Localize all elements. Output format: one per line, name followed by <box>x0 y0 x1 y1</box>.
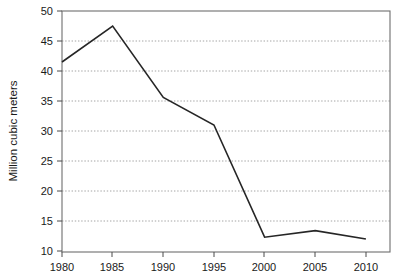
x-label-1995: 1995 <box>202 261 226 273</box>
y-label-20: 20 <box>41 185 53 197</box>
y-label-25: 25 <box>41 155 53 167</box>
y-tick-marks <box>57 11 62 251</box>
chart-canvas: 50 45 40 35 30 25 20 15 10 1980 1985 199… <box>0 0 400 280</box>
x-label-1980: 1980 <box>50 261 74 273</box>
y-label-40: 40 <box>41 65 53 77</box>
y-label-10: 10 <box>41 245 53 257</box>
x-label-1985: 1985 <box>100 261 124 273</box>
y-axis-title: Million cubic meters <box>7 80 19 181</box>
x-tick-marks <box>62 252 366 257</box>
y-label-15: 15 <box>41 215 53 227</box>
y-label-50: 50 <box>41 5 53 17</box>
y-tick-labels: 50 45 40 35 30 25 20 15 10 <box>41 5 53 257</box>
y-label-30: 30 <box>41 125 53 137</box>
plot-background <box>62 11 390 252</box>
line-chart: 50 45 40 35 30 25 20 15 10 1980 1985 199… <box>0 0 400 280</box>
x-label-2000: 2000 <box>252 261 276 273</box>
x-label-2005: 2005 <box>303 261 327 273</box>
y-label-45: 45 <box>41 35 53 47</box>
x-label-1990: 1990 <box>151 261 175 273</box>
x-label-2010: 2010 <box>354 261 378 273</box>
y-label-35: 35 <box>41 95 53 107</box>
x-tick-labels: 1980 1985 1990 1995 2000 2005 2010 <box>50 261 378 273</box>
